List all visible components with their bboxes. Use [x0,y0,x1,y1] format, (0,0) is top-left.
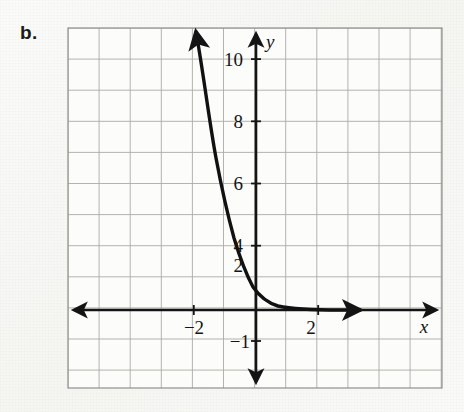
y-tick-label-6: 6 [234,173,244,194]
y-tick-label-2: 2 [234,255,244,276]
y-axis-label: y [264,31,275,52]
y-tick-label-4: 4 [234,235,244,256]
x-tick-label-2: 2 [306,317,316,338]
x-axis-label: x [419,316,429,337]
figure-container: b. [0,0,464,412]
y-tick-label-neg1: −1 [230,331,250,352]
y-tick-label-10: 10 [224,49,243,70]
x-tick-label-neg2: −2 [184,317,204,338]
y-tick-label-8: 8 [234,111,244,132]
graph-plot: 10 8 6 4 2 −1 −2 2 y x [0,0,464,412]
